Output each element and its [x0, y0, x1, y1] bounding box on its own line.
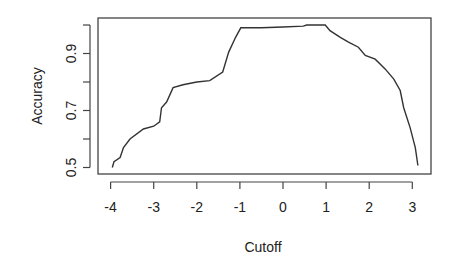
- x-tick-label: -3: [147, 199, 160, 215]
- x-axis-label: Cutoff: [244, 239, 281, 255]
- y-tick-label: 0.7: [63, 101, 79, 121]
- accuracy-cutoff-chart: 0.50.70.9 -4-3-2-10123 Cutoff Accuracy: [0, 0, 455, 270]
- x-tick-label: -1: [234, 199, 247, 215]
- x-tick-label: 3: [408, 199, 416, 215]
- y-tick-label: 0.9: [63, 44, 79, 64]
- y-tick-label: 0.5: [63, 158, 79, 178]
- x-tick-label: -2: [191, 199, 204, 215]
- x-tick-label: -4: [104, 199, 117, 215]
- y-axis-label: Accuracy: [29, 67, 45, 125]
- x-tick-label: 1: [322, 199, 330, 215]
- y-axis: 0.50.70.9: [63, 25, 90, 177]
- x-axis: -4-3-2-10123: [104, 182, 416, 215]
- accuracy-line: [112, 25, 418, 168]
- x-tick-label: 2: [365, 199, 373, 215]
- x-tick-label: 0: [279, 199, 287, 215]
- plot-frame: [98, 18, 431, 174]
